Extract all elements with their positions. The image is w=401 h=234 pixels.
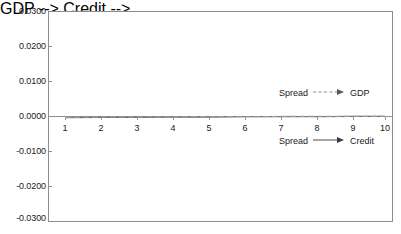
arrow-dashed-right-icon bbox=[313, 88, 345, 98]
x-tick-label: 4 bbox=[163, 124, 183, 133]
x-tick-label: 8 bbox=[307, 124, 327, 133]
series-layer bbox=[48, 11, 393, 222]
y-tick-label: 0.0200 bbox=[2, 42, 46, 51]
y-tick-label: -0.0300 bbox=[2, 214, 46, 223]
x-tick-label: 6 bbox=[235, 124, 255, 133]
legend-target-label: GDP bbox=[350, 88, 370, 98]
x-tick-label: 10 bbox=[375, 124, 395, 133]
y-tick-label: -0.0200 bbox=[2, 182, 46, 191]
impulse-response-chart: 0.0300 0.0200 0.0100 0.0000 -0.0100 -0.0… bbox=[0, 0, 401, 234]
y-tick-label: -0.0100 bbox=[2, 147, 46, 156]
arrow-solid-right-icon bbox=[313, 136, 345, 146]
x-tick-label: 9 bbox=[343, 124, 363, 133]
x-tick-label: 5 bbox=[199, 124, 219, 133]
legend-item-spread-gdp: Spread GDP bbox=[279, 88, 370, 98]
x-tick-label: 7 bbox=[271, 124, 291, 133]
y-tick-label: 0.0000 bbox=[2, 112, 46, 121]
y-tick-label: 0.0300 bbox=[2, 7, 46, 16]
x-tick-label: 2 bbox=[91, 124, 111, 133]
x-tick-label: 1 bbox=[55, 124, 75, 133]
y-tick-label: 0.0100 bbox=[2, 77, 46, 86]
legend-item-spread-credit: Spread Credit bbox=[279, 136, 374, 146]
legend-source-label: Spread bbox=[279, 136, 308, 146]
x-tick-label: 3 bbox=[127, 124, 147, 133]
legend-source-label: Spread bbox=[279, 88, 308, 98]
y-axis: 0.0300 0.0200 0.0100 0.0000 -0.0100 -0.0… bbox=[0, 0, 46, 234]
legend-target-label: Credit bbox=[350, 136, 374, 146]
